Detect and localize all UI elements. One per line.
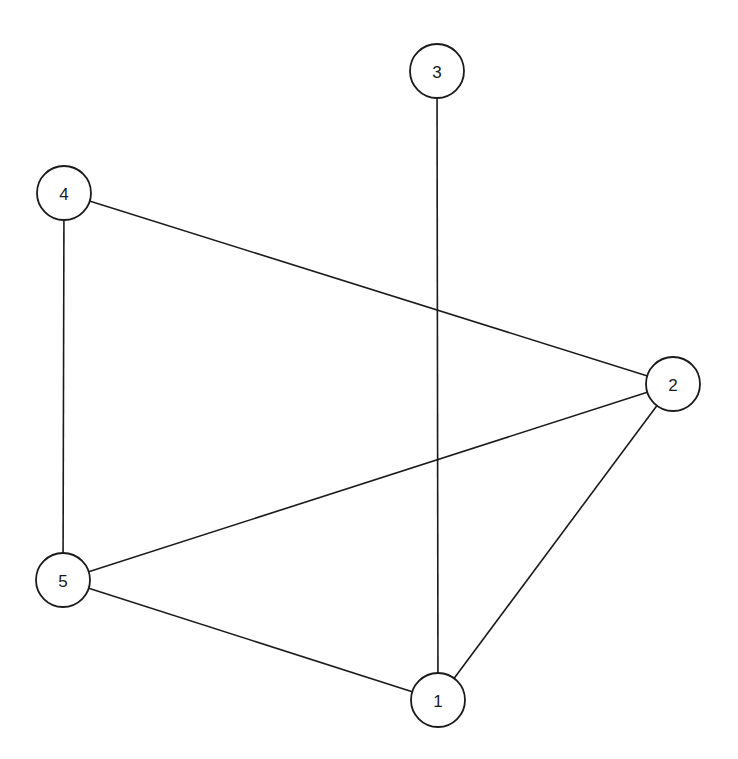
node-2: 2: [646, 357, 700, 411]
edge-4-2: [64, 193, 673, 384]
node-label: 5: [58, 572, 67, 591]
nodes-layer: 12345: [36, 44, 700, 727]
edge-4-5: [63, 193, 64, 580]
node-1: 1: [411, 673, 465, 727]
edges-layer: [63, 71, 673, 700]
node-3: 3: [410, 44, 464, 98]
edge-3-1: [437, 71, 438, 700]
node-4: 4: [37, 166, 91, 220]
node-label: 2: [668, 376, 677, 395]
graph-canvas: 12345: [0, 0, 738, 759]
node-label: 1: [433, 692, 442, 711]
node-5: 5: [36, 553, 90, 607]
node-label: 3: [432, 63, 441, 82]
edge-5-1: [63, 580, 438, 700]
edge-2-1: [438, 384, 673, 700]
node-label: 4: [59, 185, 68, 204]
edge-5-2: [63, 384, 673, 580]
